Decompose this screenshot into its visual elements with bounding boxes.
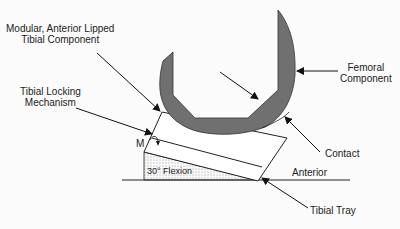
label-tibial-component-line2: Tibial Component (6, 34, 114, 45)
arrow-locking-mechanism (76, 108, 152, 134)
label-femoral-line2: Component (340, 73, 392, 84)
label-m-marker: M (136, 138, 144, 149)
label-femoral-component: Femoral Component (340, 62, 392, 84)
label-tibial-component: Modular, Anterior Lipped Tibial Componen… (6, 23, 114, 45)
knee-prosthesis-diagram: Modular, Anterior Lipped Tibial Componen… (0, 0, 400, 229)
label-locking-mechanism: Tibial Locking Mechanism (20, 86, 81, 108)
label-locking-line1: Tibial Locking (20, 86, 81, 97)
label-locking-line2: Mechanism (20, 97, 81, 108)
label-anterior: Anterior (292, 167, 327, 178)
arrow-tibial-tray (262, 178, 308, 208)
label-tibial-component-line1: Modular, Anterior Lipped (6, 23, 114, 34)
arrow-femoral-internal (220, 72, 258, 99)
label-femoral-line1: Femoral (340, 62, 392, 73)
label-contact: Contact (325, 148, 359, 159)
arrow-tibial-component (97, 53, 160, 111)
label-tibial-tray: Tibial Tray (310, 205, 356, 216)
arrow-contact (285, 117, 320, 152)
femoral-component (160, 10, 295, 134)
label-flexion-angle: 30° Flexion (147, 166, 192, 177)
